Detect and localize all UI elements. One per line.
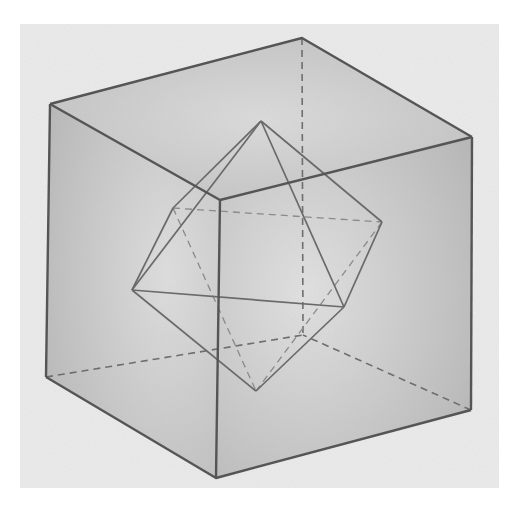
cube-octahedron-drawing xyxy=(0,0,519,512)
